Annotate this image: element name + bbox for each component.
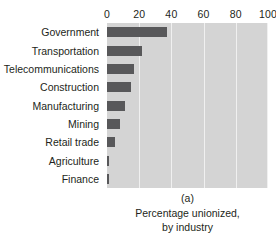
bar-retail-trade <box>107 137 115 147</box>
bar-agriculture <box>107 156 109 166</box>
bar-finance <box>107 174 109 184</box>
category-label-mining: Mining <box>68 118 99 130</box>
category-label-transportation: Transportation <box>32 45 99 57</box>
caption-panel-label: (a) <box>107 191 268 206</box>
bar-government <box>107 27 167 37</box>
category-label-government: Government <box>41 26 99 38</box>
gridline-100 <box>267 23 268 188</box>
figure-panel-a: 020406080100 GovernmentTransportationTel… <box>0 0 276 247</box>
gridline-60 <box>204 23 205 188</box>
bar-transportation <box>107 46 142 56</box>
category-label-telecommunications: Telecommunications <box>4 63 99 75</box>
x-tick-label-60: 60 <box>198 8 210 20</box>
bar-mining <box>107 119 120 129</box>
plot-area <box>107 23 268 188</box>
bar-construction <box>107 82 131 92</box>
category-label-retail-trade: Retail trade <box>45 136 99 148</box>
category-label-finance: Finance <box>62 173 99 185</box>
bar-manufacturing <box>107 101 125 111</box>
x-tick-label-100: 100 <box>259 8 276 20</box>
category-label-manufacturing: Manufacturing <box>32 100 99 112</box>
caption-line-1: Percentage unionized, <box>107 206 268 221</box>
x-tick-label-20: 20 <box>133 8 145 20</box>
bar-telecommunications <box>107 64 134 74</box>
gridline-40 <box>171 23 172 188</box>
x-tick-label-40: 40 <box>165 8 177 20</box>
x-tick-label-0: 0 <box>104 8 110 20</box>
y-axis-category-labels: GovernmentTransportationTelecommunicatio… <box>0 23 103 188</box>
gridline-80 <box>236 23 237 188</box>
caption-line-2: by industry <box>107 220 268 235</box>
category-label-agriculture: Agriculture <box>49 155 99 167</box>
category-label-construction: Construction <box>40 81 99 93</box>
figure-caption: (a) Percentage unionized, by industry <box>107 191 268 235</box>
x-tick-label-80: 80 <box>230 8 242 20</box>
